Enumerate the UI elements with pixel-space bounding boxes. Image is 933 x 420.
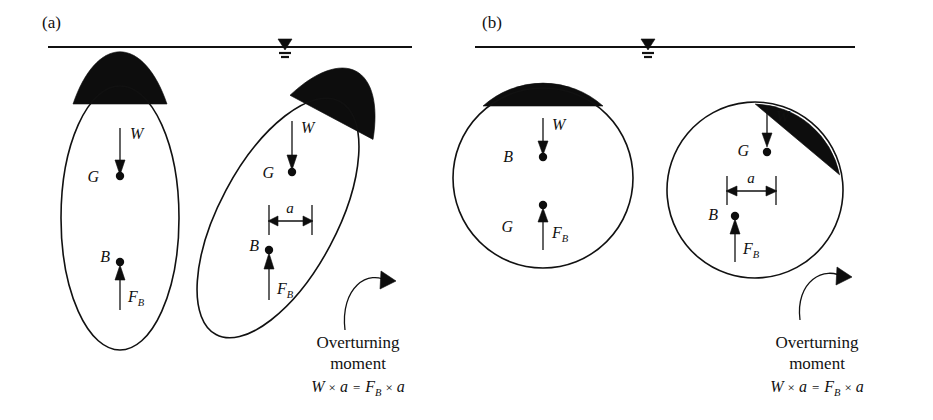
- force-W-arrow: [538, 118, 548, 155]
- panel-b-overturning-moment: Overturning moment W×a=FB×a: [770, 267, 864, 398]
- force-FB-label: FB: [127, 288, 145, 308]
- force-W-label: W: [130, 125, 145, 142]
- dimension-a: a: [726, 170, 777, 205]
- panel-b-body-upright: B W G FB: [453, 83, 633, 268]
- dimension-a-label: a: [286, 200, 294, 216]
- panel-a: (a) G W B: [42, 13, 412, 398]
- force-FB-label: FB: [276, 280, 294, 300]
- panel-b: (b) B W G: [453, 13, 879, 398]
- force-W-label: W: [552, 116, 567, 133]
- force-W-label: W: [301, 119, 316, 136]
- point-B-label: B: [708, 206, 718, 223]
- moment-arrowhead: [380, 271, 396, 289]
- point-G-marker: [288, 168, 296, 176]
- panel-a-body-upright: G W B FB: [61, 52, 179, 350]
- emerged-cap: [755, 89, 852, 174]
- moment-equation: W×a=FB×a: [770, 378, 864, 398]
- point-B-label: B: [503, 148, 513, 165]
- force-FB-label: FB: [551, 224, 569, 244]
- moment-arrowhead: [836, 267, 852, 285]
- point-G-label: G: [87, 168, 99, 185]
- point-G-marker: [116, 172, 124, 180]
- panel-a-overturning-moment: Overturning moment W×a=FB×a: [311, 271, 405, 398]
- point-G-label: G: [262, 164, 274, 181]
- force-W-label: W: [776, 108, 791, 125]
- point-B-label: B: [249, 237, 259, 254]
- force-FB-arrow: [730, 219, 740, 262]
- moment-caption-line1: Overturning: [775, 333, 859, 352]
- moment-caption-line1: Overturning: [316, 333, 400, 352]
- panel-a-label: (a): [42, 13, 61, 32]
- point-B-label: B: [100, 248, 110, 265]
- point-G-label: G: [737, 142, 749, 159]
- force-FB-arrow: [115, 265, 125, 310]
- dimension-a-label: a: [747, 170, 755, 186]
- moment-equation: W×a=FB×a: [311, 378, 405, 398]
- force-FB-arrow: [538, 208, 548, 250]
- emerged-cap: [73, 52, 167, 104]
- force-FB-label: FB: [742, 240, 760, 260]
- force-FB-arrow: [264, 253, 274, 300]
- figure-canvas: (a) G W B: [0, 0, 933, 420]
- point-B-marker: [539, 153, 547, 161]
- moment-caption-line2: moment: [330, 354, 386, 373]
- point-G-label: G: [501, 218, 513, 235]
- emerged-cap: [483, 83, 603, 106]
- dimension-a: a: [268, 200, 313, 235]
- panel-a-waterline: [48, 39, 412, 57]
- diagram-svg: (a) G W B: [0, 0, 933, 420]
- panel-b-waterline: [475, 39, 855, 57]
- point-G-marker: [763, 148, 771, 156]
- force-W-arrow: [287, 121, 297, 170]
- body-outline: [61, 86, 179, 350]
- force-W-arrow: [115, 128, 125, 175]
- moment-caption-line2: moment: [789, 354, 845, 373]
- panel-b-label: (b): [482, 13, 502, 32]
- panel-a-body-tilted: G W a B FB: [164, 44, 408, 363]
